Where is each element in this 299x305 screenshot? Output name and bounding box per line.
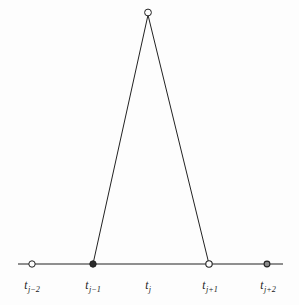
tick-label-base: t (24, 279, 27, 291)
tent-left-edge (93, 15, 148, 264)
tick-label-subscript: j+1 (206, 285, 218, 294)
tick-label-subscript: j−1 (89, 285, 101, 294)
tick-label-base: t (260, 279, 263, 291)
node-marker-t-j-minus-2 (29, 261, 35, 267)
node-marker-t-j-minus-1 (90, 261, 96, 267)
function-peak-marker (145, 9, 152, 16)
tick-label-subscript: j (149, 285, 151, 294)
plot-canvas (0, 0, 299, 305)
tick-label-t-j-plus-1: tj+1 (202, 280, 217, 292)
tick-label-t-j-minus-2: tj−2 (24, 280, 39, 292)
tick-label-t-j: tj (145, 280, 151, 292)
tick-label-subscript: j+2 (264, 285, 276, 294)
tick-label-base: t (202, 279, 205, 291)
node-marker-t-j-plus-2 (264, 261, 270, 267)
node-marker-t-j-plus-1 (206, 261, 212, 267)
tick-label-base: t (145, 279, 148, 291)
figure-container: tj−2 tj−1 tj tj+1 tj+2 (0, 0, 299, 305)
tick-label-t-j-minus-1: tj−1 (85, 280, 100, 292)
tick-label-subscript: j−2 (28, 285, 40, 294)
tick-label-t-j-plus-2: tj+2 (260, 280, 275, 292)
tick-label-base: t (85, 279, 88, 291)
tent-right-edge (148, 15, 209, 264)
